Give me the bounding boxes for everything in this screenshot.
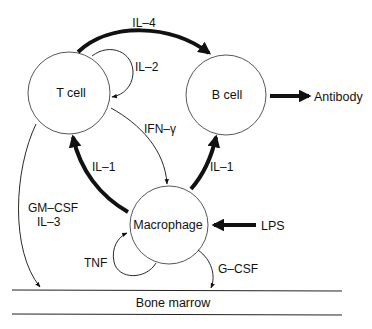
label-il1-left: IL–1 [92, 160, 116, 174]
bone-marrow-band: Bone marrow [12, 290, 342, 315]
label-tnf: TNF [84, 256, 107, 270]
label-gcsf: G–CSF [218, 262, 258, 276]
node-b-cell: B cell [186, 55, 266, 135]
t-cell-label: T cell [56, 86, 86, 100]
b-cell-label: B cell [212, 88, 243, 102]
label-il1-right: IL–1 [210, 160, 234, 174]
edge-gcsf-arrow [198, 250, 213, 288]
label-il3: IL–3 [37, 215, 61, 229]
label-il4: IL–4 [132, 16, 156, 30]
label-gmcsf: GM–CSF [28, 201, 78, 215]
macrophage-label: Macrophage [133, 218, 203, 232]
cytokine-diagram: T cell B cell Macrophage IL–4 IL–2 IFN–γ… [0, 0, 372, 329]
node-t-cell: T cell [28, 52, 110, 134]
bone-marrow-top-line [12, 290, 342, 291]
label-lps: LPS [261, 219, 285, 233]
node-macrophage: Macrophage [130, 186, 208, 264]
bone-marrow-label: Bone marrow [136, 296, 211, 310]
bone-marrow-bottom-line [12, 314, 342, 315]
edge-il1-to-tcell-arrow [73, 137, 128, 212]
edge-ifng-arrow [111, 108, 167, 184]
label-il2: IL–2 [135, 60, 159, 74]
edge-il4-arrow [78, 30, 209, 53]
label-antibody: Antibody [314, 90, 363, 104]
label-ifng: IFN–γ [144, 122, 176, 136]
